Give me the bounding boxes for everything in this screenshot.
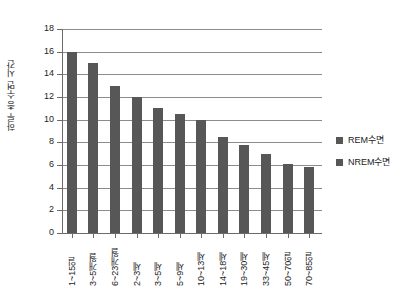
legend-item[interactable]: NREM수면	[336, 158, 418, 167]
x-tick-label: 6~23개월	[110, 240, 120, 286]
x-tick-mark	[115, 234, 116, 238]
gridline	[63, 29, 322, 30]
legend-swatch	[336, 159, 343, 166]
x-tick-mark	[93, 234, 94, 238]
bar	[88, 63, 98, 233]
bar	[283, 164, 293, 233]
x-tick-mark	[309, 234, 310, 238]
legend-label: NREM수면	[348, 158, 391, 167]
x-tick-label: 1~15일	[67, 240, 77, 286]
bar	[110, 86, 120, 233]
y-axis-title: 하루 총 수면 시간	[6, 60, 22, 131]
y-tick-label: 12	[28, 92, 54, 101]
gridline	[63, 97, 322, 98]
y-tick-label: 16	[28, 47, 54, 56]
x-tick-mark	[288, 234, 289, 238]
x-tick-mark	[201, 234, 202, 238]
gridline	[63, 52, 322, 53]
gridline	[63, 233, 322, 234]
y-tick-label: 2	[28, 205, 54, 214]
sleep-duration-bar-chart: 하루 총 수면 시간 181614121086420 1~15일3~5개월6~2…	[0, 0, 418, 289]
bar	[261, 154, 271, 233]
legend-item[interactable]: REM수면	[336, 136, 418, 145]
bar	[67, 52, 77, 233]
x-tick-mark	[223, 234, 224, 238]
bar	[153, 108, 163, 233]
x-tick-label: 33~45세	[261, 240, 271, 286]
x-tick-mark	[180, 234, 181, 238]
y-tick-label: 8	[28, 137, 54, 146]
x-tick-mark	[137, 234, 138, 238]
gridline	[63, 142, 322, 143]
x-tick-label: 2~3세	[132, 240, 142, 286]
x-tick-mark	[244, 234, 245, 238]
gridline	[63, 120, 322, 121]
bar	[239, 145, 249, 233]
x-tick-label: 19~30세	[239, 240, 249, 286]
bar	[175, 114, 185, 233]
y-tick-label: 6	[28, 160, 54, 169]
x-tick-mark	[266, 234, 267, 238]
y-tick-label: 14	[28, 69, 54, 78]
chart-legend: REM수면NREM수면	[336, 136, 418, 180]
x-tick-mark	[72, 234, 73, 238]
x-tick-label: 50~70일	[283, 240, 293, 286]
x-tick-mark	[158, 234, 159, 238]
x-tick-label: 14~18세	[218, 240, 228, 286]
x-tick-label: 3~5개월	[88, 240, 98, 286]
bar	[132, 97, 142, 233]
x-tick-label: 3~5세	[153, 240, 163, 286]
x-tick-label: 10~13세	[196, 240, 206, 286]
y-tick-label: 4	[28, 183, 54, 192]
y-tick-label: 18	[28, 24, 54, 33]
y-tick-label: 0	[28, 228, 54, 237]
bar	[218, 137, 228, 233]
bar	[196, 120, 206, 233]
plot-area	[63, 29, 322, 233]
y-tick-label: 10	[28, 115, 54, 124]
legend-label: REM수면	[348, 136, 384, 145]
gridline	[63, 74, 322, 75]
x-tick-label: 5~9세	[175, 240, 185, 286]
x-tick-label: 70~85일	[304, 240, 314, 286]
legend-swatch	[336, 137, 343, 144]
bar	[304, 167, 314, 233]
